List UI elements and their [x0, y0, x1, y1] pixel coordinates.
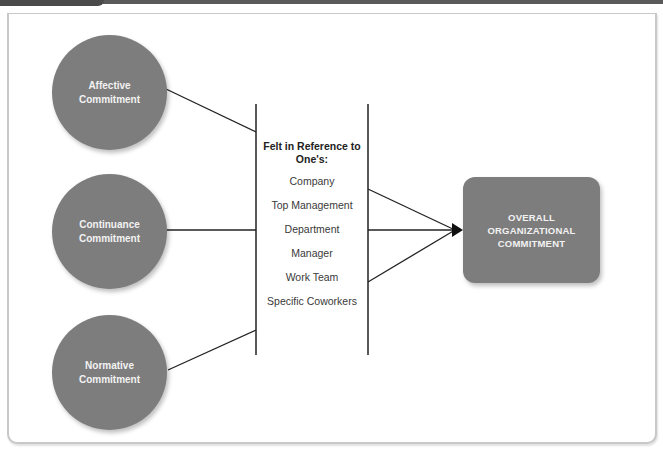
referent-item-manager: Manager [256, 247, 368, 260]
referent-item-specific-coworkers: Specific Coworkers [256, 295, 368, 308]
referent-item-work-team: Work Team [256, 271, 368, 284]
affective-connector [166, 89, 256, 132]
referents-heading: Felt in Reference to One's: [256, 140, 368, 166]
overall-commitment-node: OVERALL ORGANIZATIONAL COMMITMENT [463, 177, 600, 283]
normative-connector [168, 330, 256, 370]
overall-commitment-label: OVERALL ORGANIZATIONAL COMMITMENT [472, 211, 592, 250]
referent-item-department: Department [256, 223, 368, 236]
affective-commitment-node: Affective Commitment [52, 35, 167, 150]
referent-item-top-management: Top Management [256, 199, 368, 212]
lower-output-connector [368, 230, 455, 282]
continuance-commitment-label: Continuance Commitment [70, 218, 150, 246]
arrowhead-icon [452, 223, 463, 237]
normative-commitment-label: Normative Commitment [70, 359, 150, 387]
continuance-commitment-node: Continuance Commitment [52, 174, 167, 289]
affective-commitment-label: Affective Commitment [70, 79, 150, 107]
referents-panel: Felt in Reference to One's: Company Top … [256, 140, 368, 319]
upper-output-connector [368, 189, 455, 230]
normative-commitment-node: Normative Commitment [52, 315, 167, 430]
referent-item-company: Company [256, 175, 368, 188]
